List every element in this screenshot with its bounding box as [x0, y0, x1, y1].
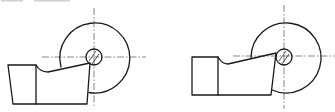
right-shank-section	[192, 57, 218, 95]
right-view-drawing	[192, 5, 334, 109]
cutoff-caption-fragment	[1, 0, 70, 2]
left-workpiece-arc	[60, 23, 130, 93]
left-view-drawing	[8, 8, 146, 108]
left-shank-section	[8, 65, 36, 104]
left-tool-body	[36, 63, 90, 104]
right-tool-body	[218, 53, 276, 95]
figure-canvas	[0, 0, 335, 112]
